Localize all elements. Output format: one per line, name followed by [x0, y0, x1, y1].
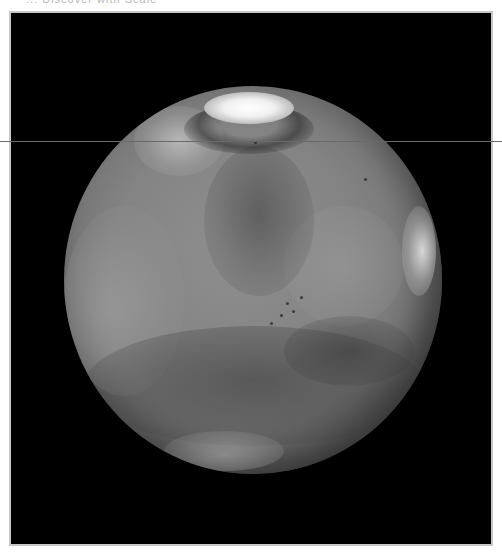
surface-spot	[270, 322, 273, 325]
bright-west-region	[64, 206, 184, 396]
bright-east-region	[284, 206, 404, 326]
surface-spot	[292, 310, 295, 313]
eastern-limb-cloud	[402, 206, 436, 296]
surface-spot	[286, 302, 289, 305]
mars-planet-image	[64, 86, 442, 474]
image-caption: ... Discover with Scale	[26, 0, 157, 5]
southeast-dark-region	[284, 316, 414, 386]
dark-northern-region	[204, 146, 314, 296]
southern-limb-brightening	[164, 431, 284, 471]
polar-cap-collar	[184, 104, 314, 154]
surface-spot	[364, 178, 367, 181]
southern-dark-band	[84, 326, 424, 446]
north-polar-cap	[204, 92, 294, 124]
surface-spot	[300, 296, 303, 299]
horizontal-scanline	[0, 141, 502, 142]
surface-spot	[280, 314, 283, 317]
image-frame	[9, 11, 493, 546]
